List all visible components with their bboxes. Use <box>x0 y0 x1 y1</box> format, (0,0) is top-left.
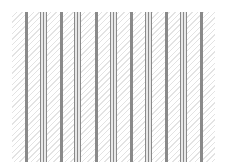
triple-line <box>145 12 152 162</box>
triple-line <box>110 12 117 162</box>
triple-line <box>74 12 81 162</box>
single-line <box>95 12 98 162</box>
single-line <box>130 12 133 162</box>
single-line <box>165 12 168 162</box>
striped-pattern <box>12 12 215 162</box>
triple-line <box>180 12 187 162</box>
single-line <box>200 12 203 162</box>
triple-line <box>40 12 47 162</box>
single-line <box>60 12 63 162</box>
single-line <box>25 12 28 162</box>
